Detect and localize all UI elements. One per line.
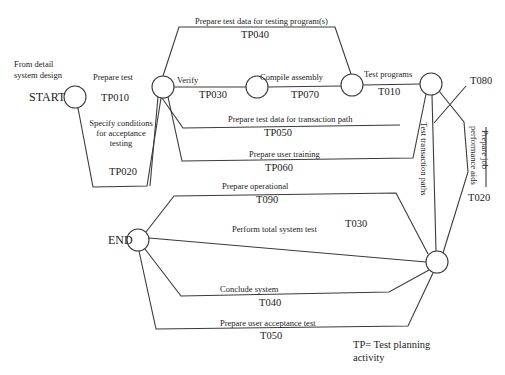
- tp070-code: TP070: [291, 89, 319, 100]
- test-node: [341, 74, 363, 96]
- edge-t040: [145, 249, 429, 296]
- edge-verify-branch: [150, 97, 158, 186]
- start-node: [64, 86, 86, 108]
- t010-code: T010: [378, 86, 400, 97]
- tp010-code: TP010: [101, 92, 129, 103]
- verify-node: [152, 76, 174, 98]
- tp060-code: TP060: [265, 162, 293, 173]
- t090-name: Prepare operational: [222, 181, 289, 191]
- t050-name: Prepare user acceptance test: [220, 318, 316, 328]
- tp020-name-line2: for acceptance: [96, 128, 146, 138]
- end-label: END: [108, 233, 133, 247]
- edge-test-transaction-paths: [432, 95, 436, 251]
- t020-name-line1: Prepare job: [480, 130, 490, 169]
- t020-code: T020: [468, 192, 490, 203]
- tp030-name: Verify: [177, 75, 199, 85]
- t080-code: T080: [470, 75, 492, 86]
- tp020-name-line1: Specify conditions: [89, 118, 153, 128]
- t050-code: T050: [260, 330, 282, 341]
- legend-line1: TP= Test planning: [353, 339, 431, 350]
- edge-tp070: [268, 86, 341, 87]
- tp020-code: TP020: [109, 166, 137, 177]
- edge-t010: [363, 84, 420, 85]
- tp020-name-line3: testing: [110, 138, 133, 148]
- t030-code: T030: [345, 218, 367, 229]
- tp040-code: TP040: [241, 29, 269, 40]
- source-note-line1: From detail: [14, 59, 54, 69]
- tp040-name: Prepare test data for testing program(s): [195, 16, 328, 26]
- edge-t030: [149, 238, 426, 262]
- tp060-name: Prepare user training: [249, 149, 321, 159]
- tp010-name: Prepare test: [93, 72, 134, 82]
- t040-name: Conclude system: [220, 284, 279, 294]
- t010-name: Test programs: [364, 69, 412, 79]
- t090-code: T090: [256, 194, 278, 205]
- t020-name-line2: performance aids: [469, 126, 479, 185]
- test-transaction-paths-label: Test transaction paths: [419, 122, 429, 196]
- integration-node: [420, 73, 442, 95]
- source-note-line2: system design: [14, 70, 63, 80]
- t040-code: T040: [259, 297, 281, 308]
- system-test-node: [426, 251, 448, 273]
- activity-network-diagram: From detail system design START Prepare …: [0, 0, 505, 375]
- tp050-name: Prepare test data for transaction path: [228, 114, 353, 124]
- legend-line2: activity: [353, 352, 385, 363]
- start-label: START: [29, 90, 66, 104]
- tp050-code: TP050: [264, 127, 292, 138]
- tp070-name: Compile assembly: [260, 72, 324, 82]
- t030-name: Perform total system test: [232, 224, 317, 234]
- tp030-code: TP030: [199, 89, 227, 100]
